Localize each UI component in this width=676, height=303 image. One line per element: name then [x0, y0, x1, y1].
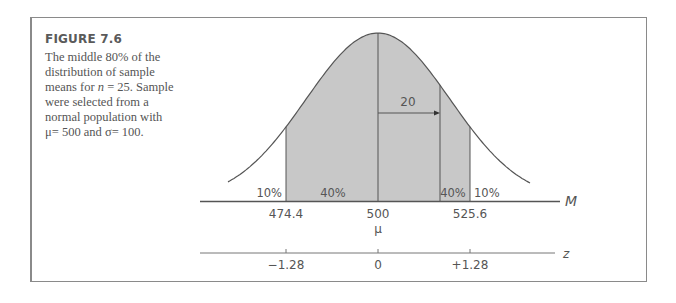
m-tick-label: 525.6: [453, 207, 487, 221]
z-tick-label: −1.28: [268, 258, 305, 272]
m-axis-label: M: [565, 193, 577, 209]
tail-left-label: 10%: [256, 186, 282, 200]
mu-label: μ: [374, 222, 382, 236]
z-axis-label: z: [562, 247, 570, 261]
mid-left-label: 40%: [320, 186, 346, 200]
mid-right-label: 40%: [440, 186, 466, 200]
m-tick-label: 500: [367, 207, 390, 221]
m-tick-label: 474.4: [269, 207, 303, 221]
z-tick-label: 0: [374, 258, 382, 272]
arrow-label: 20: [400, 95, 415, 109]
tail-right-label: 10%: [474, 186, 500, 200]
normal-distribution-diagram: 20 10% 40% 40% 10% M 474.4 500 525.6 μ z…: [0, 0, 676, 303]
z-tick-label: +1.28: [452, 258, 489, 272]
